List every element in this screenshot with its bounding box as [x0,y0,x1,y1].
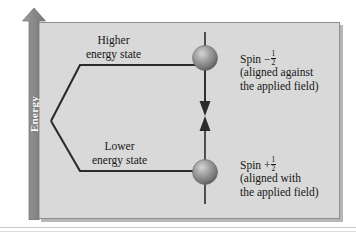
spin-up-fraction: 12 [271,156,276,172]
spin-up-denominator: 2 [271,165,276,173]
spin-up-sign: + [264,159,271,171]
lower-level-label-line2: energy state [92,154,147,168]
spin-down-fraction: 12 [271,50,276,66]
spin-up-arrow-head [200,116,211,131]
upper-level-label-line1: Higher [86,34,141,48]
spin-down-group [183,32,227,124]
spin-down-sphere [193,46,218,71]
lower-level-label-line1: Lower [92,140,147,154]
spin-up-prefix: Spin [240,159,261,171]
spin-up-desc-line1: (aligned with [240,172,319,186]
energy-splitting-diagram: Energy [0,0,356,236]
spin-up-annotation: Spin +12 (aligned with the applied field… [240,156,319,199]
spin-down-value-line: Spin −12 [240,50,319,66]
bottom-rule-lower [0,231,356,232]
upper-level-label: Higher energy state [86,34,141,61]
spin-up-desc-line2: the applied field) [240,186,319,200]
spin-up-group [183,112,227,204]
spin-down-denominator: 2 [271,59,276,67]
spin-up-value-line: Spin +12 [240,156,319,172]
spin-down-desc-line2: the applied field) [240,80,319,94]
lower-level-label: Lower energy state [92,140,147,167]
bottom-rule-upper [0,227,356,228]
energy-axis-arrow [22,8,46,220]
upper-level-label-line2: energy state [86,48,141,62]
spin-down-desc-line1: (aligned against [240,66,319,80]
spin-down-sign: − [264,53,271,65]
upper-level-line [51,65,196,121]
spin-up-sphere [193,160,218,185]
spin-down-annotation: Spin −12 (aligned against the applied fi… [240,50,319,93]
spin-down-prefix: Spin [240,53,261,65]
